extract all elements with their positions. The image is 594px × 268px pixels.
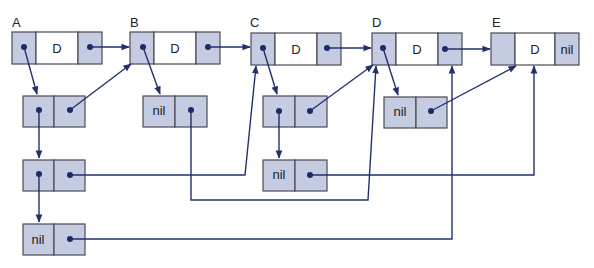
node-label-b: B (130, 15, 139, 30)
sub-node-c1 (263, 96, 327, 127)
node-e-data: D (530, 42, 539, 57)
sub-node-a3-nil: nil (31, 232, 44, 247)
node-label-c: C (250, 15, 259, 30)
node-label-d: D (372, 15, 381, 30)
linked-structure-diagram: A B C D E D D D D (0, 0, 594, 268)
node-d-data: D (412, 42, 421, 57)
sub-node-b1: nil (143, 96, 207, 127)
sub-node-b1-nil: nil (152, 103, 165, 118)
sub-node-d1: nil (384, 97, 447, 128)
edge-a3-to-e (70, 66, 452, 239)
edge-c1-to-d (310, 65, 373, 111)
sub-node-c2-nil: nil (272, 167, 285, 182)
sub-node-a1 (23, 96, 85, 127)
node-a: D (12, 32, 102, 64)
node-e: D nil (491, 33, 579, 65)
node-b-data: D (170, 41, 179, 56)
sub-node-d1-nil: nil (393, 104, 406, 119)
node-label-e: E (492, 15, 501, 30)
edge-a1-to-b (70, 64, 131, 110)
edge-d1-to-e (431, 66, 516, 111)
node-c: D (251, 33, 341, 65)
node-e-nil: nil (560, 42, 573, 57)
node-label-a: A (12, 15, 21, 30)
node-a-data: D (52, 41, 61, 56)
node-c-data: D (291, 42, 300, 57)
